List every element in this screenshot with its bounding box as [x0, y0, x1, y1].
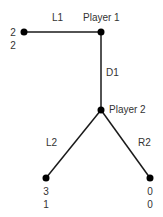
payoff-bottom-left-p2: 1 [41, 198, 51, 211]
terminal-node-bottom-right [147, 175, 154, 182]
payoff-bottom-right-p2: 0 [145, 198, 155, 211]
edge-label-d1: D1 [106, 67, 119, 79]
edge-label-r2: R2 [138, 137, 151, 149]
payoff-left-p1: 2 [8, 26, 18, 39]
payoff-bottom-left-p1: 3 [41, 185, 51, 198]
edge-label-l2: L2 [46, 137, 57, 149]
player-2-label: Player 2 [109, 104, 146, 116]
payoff-left-p2: 2 [8, 39, 18, 52]
node-player-2 [98, 107, 105, 114]
player-1-label: Player 1 [83, 12, 120, 24]
terminal-node-bottom-left [43, 175, 50, 182]
payoff-bottom-right-p1: 0 [145, 185, 155, 198]
node-player-1 [98, 29, 105, 36]
edge-label-l1: L1 [52, 12, 63, 24]
terminal-node-left [21, 29, 28, 36]
